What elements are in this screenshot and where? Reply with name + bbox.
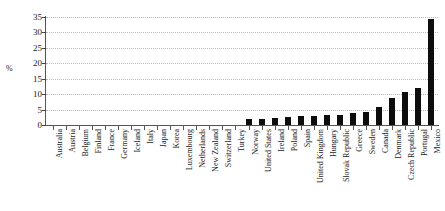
x-tick-label: Czech Republic bbox=[408, 129, 416, 180]
x-tick-label: Greece bbox=[356, 129, 364, 152]
x-axis-tick-labels: AustraliaAustriaBelgiumFinlandFranceGerm… bbox=[46, 129, 438, 211]
x-tick-label: Mexico bbox=[434, 129, 442, 153]
bar bbox=[376, 107, 382, 125]
bar bbox=[337, 115, 343, 125]
bar bbox=[272, 118, 278, 125]
y-tick-mark bbox=[42, 79, 46, 80]
y-axis-title: % bbox=[6, 64, 13, 73]
bar bbox=[298, 116, 304, 125]
bar bbox=[285, 117, 291, 125]
y-tick-label: 20 bbox=[33, 59, 42, 68]
bar-series bbox=[46, 17, 438, 125]
x-tick-label: Australia bbox=[56, 129, 64, 158]
y-tick-mark bbox=[42, 17, 46, 18]
y-tick-mark bbox=[42, 32, 46, 33]
y-axis-tick-labels: 05101520253035 bbox=[20, 0, 42, 211]
x-tick-label: Belgium bbox=[82, 129, 90, 157]
x-tick-label: New Zealand bbox=[212, 129, 220, 172]
x-tick-label: Canada bbox=[382, 129, 390, 153]
x-tick-label: Poland bbox=[291, 129, 299, 151]
x-tick-label: Denmark bbox=[395, 129, 403, 159]
x-tick-label: Germany bbox=[121, 129, 129, 159]
y-tick-mark bbox=[42, 48, 46, 49]
x-tick-label: Ireland bbox=[278, 129, 286, 152]
x-tick-label: Norway bbox=[252, 129, 260, 155]
y-tick-mark bbox=[42, 63, 46, 64]
bar bbox=[415, 88, 421, 125]
bar bbox=[389, 98, 395, 125]
bar-chart: % 05101520253035 AustraliaAustriaBelgium… bbox=[0, 0, 445, 211]
y-tick-label: 10 bbox=[33, 90, 42, 99]
x-tick-label: Netherlands bbox=[199, 129, 207, 168]
x-tick-label: United Kingdom bbox=[317, 129, 325, 183]
x-tick-label: Finland bbox=[95, 129, 103, 153]
bar bbox=[259, 119, 265, 125]
x-tick-label: Switzerland bbox=[225, 129, 233, 167]
x-tick-label: Slovak Republic bbox=[343, 129, 351, 182]
bar bbox=[311, 116, 317, 125]
x-tick-label: Sweden bbox=[369, 129, 377, 154]
bar bbox=[402, 92, 408, 125]
bar bbox=[363, 112, 369, 125]
x-tick-label: Japan bbox=[160, 129, 168, 147]
x-tick-label: Turkey bbox=[238, 129, 246, 152]
plot-area bbox=[46, 17, 438, 125]
x-tick-label: Portugal bbox=[421, 129, 429, 156]
y-tick-label: 25 bbox=[33, 43, 42, 52]
x-tick-label: Italy bbox=[147, 129, 155, 144]
y-tick-label: 35 bbox=[33, 13, 42, 22]
x-tick-label: Korea bbox=[173, 129, 181, 149]
x-tick-label: Austria bbox=[69, 129, 77, 153]
y-tick-label: 15 bbox=[33, 74, 42, 83]
x-tick-label: Iceland bbox=[134, 129, 142, 153]
x-tick-label: France bbox=[108, 129, 116, 151]
y-tick-mark bbox=[42, 125, 46, 126]
y-tick-mark bbox=[42, 94, 46, 95]
bar bbox=[428, 19, 434, 125]
bar bbox=[246, 119, 252, 125]
x-tick-label: Spain bbox=[304, 129, 312, 147]
bar bbox=[350, 113, 356, 125]
x-tick-label: United States bbox=[265, 129, 273, 172]
y-tick-mark bbox=[42, 110, 46, 111]
x-tick-label: Hungary bbox=[330, 129, 338, 157]
x-tick-label: Luxembourg bbox=[186, 129, 194, 170]
y-tick-label: 30 bbox=[33, 28, 42, 37]
bar bbox=[324, 115, 330, 125]
